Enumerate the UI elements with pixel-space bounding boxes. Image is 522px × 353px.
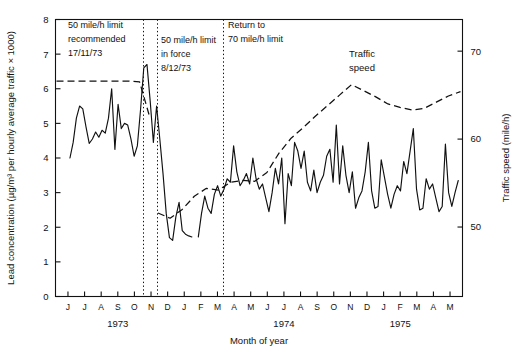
annotation-return-70: Return to70 mile/h limit	[228, 20, 284, 44]
traffic-speed-line-post	[158, 85, 461, 219]
annotation-line: 8/12/73	[161, 63, 191, 73]
traffic-speed-series	[57, 81, 461, 218]
annotation-line: recommended	[68, 34, 126, 44]
month-label: N	[347, 302, 353, 312]
month-label: F	[198, 302, 203, 312]
year-labels: 197319741975	[107, 318, 411, 329]
annotation-line: in force	[161, 49, 191, 59]
left-axis-title: Lead concentration (µg/m³ per hourly ave…	[5, 31, 16, 285]
bottom-axis-title: Month of year	[230, 335, 288, 346]
left-tick-label: 1	[43, 256, 48, 267]
bottom-axis-ticks	[68, 292, 450, 297]
traffic-speed-line-pre	[57, 81, 151, 118]
year-label: 1974	[273, 318, 294, 329]
right-axis-title: Traffic speed (mile/h)	[500, 114, 511, 203]
annotation-line: 50 mile/h limit	[161, 35, 217, 45]
month-label: D	[165, 302, 171, 312]
left-axis-ticks: 012345678	[43, 14, 60, 302]
month-label: S	[314, 302, 320, 312]
right-tick-label: 50	[471, 221, 482, 232]
left-tick-label: 4	[43, 152, 48, 163]
month-label: M	[446, 302, 453, 312]
right-tick-label: 60	[471, 133, 482, 144]
month-label: A	[431, 302, 437, 312]
annotation-50-in-force: 50 mile/h limitin force8/12/73	[161, 35, 217, 73]
lead-concentration-line	[70, 65, 192, 241]
month-label: A	[298, 302, 304, 312]
month-label: J	[182, 302, 186, 312]
annotation-line: 70 mile/h limit	[228, 34, 284, 44]
month-label: O	[330, 302, 337, 312]
month-label: N	[148, 302, 154, 312]
month-label: J	[265, 302, 269, 312]
year-label: 1973	[107, 318, 128, 329]
month-label: A	[98, 302, 104, 312]
annotation-line: Return to	[228, 20, 265, 30]
left-tick-label: 8	[43, 14, 48, 25]
month-label: A	[231, 302, 237, 312]
month-label: J	[381, 302, 385, 312]
month-label: J	[282, 302, 286, 312]
annotation-line: Traffic	[349, 48, 375, 59]
month-label: M	[247, 302, 254, 312]
chart-figure: 012345678 506070 JJASONDJFMAMJJASONDJFMA…	[0, 0, 522, 353]
lead-concentration-traffic-speed-chart: 012345678 506070 JJASONDJFMAMJJASONDJFMA…	[0, 0, 522, 353]
month-label: O	[131, 302, 138, 312]
chart-annotations: 50 mile/h limitrecommended17/11/7350 mil…	[68, 20, 375, 73]
left-tick-label: 5	[43, 118, 48, 129]
plot-frame	[56, 20, 463, 297]
left-tick-label: 6	[43, 83, 48, 94]
right-axis-ticks: 506070	[458, 46, 482, 233]
month-label: M	[413, 302, 420, 312]
annotation-traffic-speed: Trafficspeed	[349, 48, 375, 73]
lead-concentration-series	[70, 65, 458, 241]
month-label: F	[398, 302, 403, 312]
left-tick-label: 3	[43, 187, 48, 198]
event-marker-lines	[144, 20, 224, 297]
plot-area-border	[56, 20, 463, 297]
month-label: J	[82, 302, 86, 312]
annotation-line: speed	[349, 62, 375, 73]
left-tick-label: 7	[43, 49, 48, 60]
month-label: J	[66, 302, 70, 312]
annotation-line: 50 mile/h limit	[68, 20, 124, 30]
annotation-line: 17/11/73	[68, 48, 102, 58]
year-label: 1975	[390, 318, 411, 329]
month-label: D	[364, 302, 370, 312]
month-label: S	[115, 302, 121, 312]
month-label: M	[214, 302, 221, 312]
right-tick-label: 70	[471, 46, 482, 57]
month-tick-labels: JJASONDJFMAMJJASONDJFMAM	[66, 302, 454, 312]
left-tick-label: 2	[43, 222, 48, 233]
left-tick-label: 0	[43, 291, 48, 302]
annotation-50-recommended: 50 mile/h limitrecommended17/11/73	[68, 20, 126, 58]
